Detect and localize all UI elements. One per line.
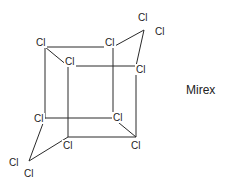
chlorine-atom-label: Cl bbox=[9, 157, 18, 168]
chlorine-atom-label: Cl bbox=[63, 140, 72, 151]
bond-lines bbox=[29, 30, 144, 161]
chlorine-atom-label: Cl bbox=[138, 12, 147, 23]
chlorine-atom-label: Cl bbox=[24, 168, 33, 179]
chlorine-atom-label: Cl bbox=[36, 37, 45, 48]
chlorine-atom-label: Cl bbox=[131, 140, 140, 151]
bond-line bbox=[29, 118, 45, 161]
chlorine-atom-label: Cl bbox=[34, 113, 43, 124]
bond-line bbox=[136, 30, 144, 66]
chlorine-atom-label: Cl bbox=[105, 37, 114, 48]
chlorine-atom-label: Cl bbox=[155, 26, 164, 37]
chlorine-atom-label: Cl bbox=[136, 64, 145, 75]
mirex-structure-diagram: ClClClClClClClClClClClCl Mirex bbox=[0, 0, 227, 189]
bond-line bbox=[113, 30, 144, 47]
chlorine-atom-label: Cl bbox=[113, 112, 122, 123]
chlorine-atom-label: Cl bbox=[65, 56, 74, 67]
compound-name-label: Mirex bbox=[186, 83, 215, 97]
